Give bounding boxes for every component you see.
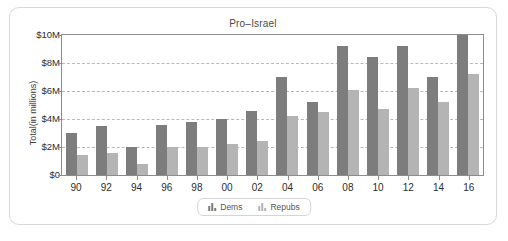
bar-repubs-08[interactable] [348, 90, 359, 175]
y-axis-tick-label: $10M [24, 29, 60, 40]
bar-dems-04[interactable] [276, 77, 287, 175]
x-axis-tickmark [378, 176, 379, 180]
bar-repubs-12[interactable] [408, 88, 419, 175]
y-axis-tick-label: $0 [24, 169, 60, 180]
bar-repubs-92[interactable] [107, 153, 118, 175]
legend-item-dems[interactable]: Dems [208, 202, 242, 212]
bar-repubs-10[interactable] [378, 109, 389, 175]
bar-repubs-96[interactable] [167, 147, 178, 175]
y-axis-ticks: $0$2M$4M$6M$8M$10M [20, 8, 60, 226]
bar-groups [62, 35, 483, 175]
bar-dems-94[interactable] [126, 147, 137, 175]
bar-repubs-14[interactable] [438, 102, 449, 175]
plot-wrapper: Total(in millions) $0$2M$4M$6M$8M$10M 90… [10, 8, 498, 226]
bar-group [427, 35, 449, 175]
bar-group [367, 35, 389, 175]
chart-card: Pro–Israel Total(in millions) $0$2M$4M$6… [9, 7, 497, 225]
x-axis-tickmark [257, 176, 258, 180]
x-axis-tick-label-04: 04 [273, 182, 303, 193]
x-axis-tick-label-92: 92 [91, 182, 121, 193]
bar-group [246, 35, 268, 175]
x-axis-tickmark [106, 176, 107, 180]
bar-group [457, 35, 479, 175]
bar-dems-14[interactable] [427, 77, 438, 175]
bar-dems-92[interactable] [96, 126, 107, 175]
x-axis-tick-label-10: 10 [363, 182, 393, 193]
bar-repubs-06[interactable] [318, 112, 329, 175]
x-axis-tick-label-06: 06 [303, 182, 333, 193]
bar-repubs-02[interactable] [257, 141, 268, 175]
bar-dems-90[interactable] [66, 133, 77, 175]
bar-dems-00[interactable] [216, 119, 227, 175]
x-axis-tick-label-94: 94 [122, 182, 152, 193]
x-axis-tick-label-90: 90 [61, 182, 91, 193]
x-axis-tick-label-00: 00 [212, 182, 242, 193]
x-axis-tickmark [348, 176, 349, 180]
bar-group [156, 35, 178, 175]
bar-repubs-04[interactable] [287, 116, 298, 175]
bar-dems-06[interactable] [307, 102, 318, 175]
plot-area [61, 34, 484, 176]
y-axis-tick-label: $6M [24, 85, 60, 96]
bar-group [96, 35, 118, 175]
x-axis-tick-label-16: 16 [454, 182, 484, 193]
bar-dems-16[interactable] [457, 35, 468, 175]
bar-dems-08[interactable] [337, 46, 348, 175]
y-axis-tick-label: $2M [24, 141, 60, 152]
bar-dems-10[interactable] [367, 57, 378, 175]
bar-repubs-90[interactable] [77, 155, 88, 175]
x-axis-tickmark [318, 176, 319, 180]
x-axis-tickmark [197, 176, 198, 180]
bar-group [216, 35, 238, 175]
bar-group [66, 35, 88, 175]
bar-group [186, 35, 208, 175]
y-axis-tick-label: $4M [24, 113, 60, 124]
x-axis-ticks: 9092949698000204060810121416 [61, 176, 484, 194]
x-axis-tick-label-96: 96 [152, 182, 182, 193]
x-axis-tickmark [408, 176, 409, 180]
bar-repubs-98[interactable] [197, 147, 208, 175]
x-axis-tick-label-12: 12 [393, 182, 423, 193]
bar-chart-icon [208, 203, 216, 211]
x-axis-tick-label-08: 08 [333, 182, 363, 193]
bar-group [397, 35, 419, 175]
bar-dems-98[interactable] [186, 122, 197, 175]
bar-repubs-16[interactable] [468, 74, 479, 175]
x-axis-tickmark [439, 176, 440, 180]
x-axis-tick-label-98: 98 [182, 182, 212, 193]
x-axis-tickmark [137, 176, 138, 180]
bar-dems-12[interactable] [397, 46, 408, 175]
x-axis-tickmark [288, 176, 289, 180]
bar-group [337, 35, 359, 175]
legend-label-dems: Dems [220, 202, 242, 212]
bar-dems-02[interactable] [246, 111, 257, 175]
bar-chart-icon [258, 203, 266, 211]
y-axis-tick-label: $8M [24, 57, 60, 68]
x-axis-tickmark [167, 176, 168, 180]
bar-repubs-00[interactable] [227, 144, 238, 175]
bar-group [276, 35, 298, 175]
bar-dems-96[interactable] [156, 125, 167, 175]
legend-item-repubs[interactable]: Repubs [258, 202, 299, 212]
bar-group [307, 35, 329, 175]
bar-group [126, 35, 148, 175]
x-axis-tickmark [76, 176, 77, 180]
legend-label-repubs: Repubs [270, 202, 299, 212]
x-axis-tick-label-14: 14 [424, 182, 454, 193]
x-axis-tickmark [227, 176, 228, 180]
x-axis-tick-label-02: 02 [242, 182, 272, 193]
chart-legend: Dems Repubs [197, 198, 311, 216]
bar-repubs-94[interactable] [137, 164, 148, 175]
x-axis-tickmark [469, 176, 470, 180]
